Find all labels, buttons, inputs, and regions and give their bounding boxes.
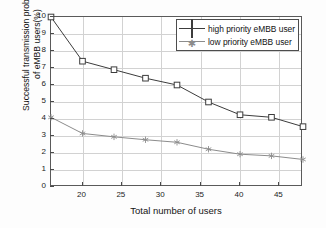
data-point-marker-square <box>269 115 275 121</box>
y-tick-mark <box>50 16 54 17</box>
y-tick-label: 10 <box>24 11 46 20</box>
x-tick-mark <box>121 182 122 186</box>
x-tick-mark <box>200 182 201 186</box>
y-tick-label: 0 <box>24 181 46 190</box>
y-tick-mark <box>50 50 54 51</box>
data-point-marker-square <box>111 67 117 73</box>
x-axis-title: Total number of users <box>50 205 302 216</box>
y-tick-label: 8 <box>24 45 46 54</box>
chart-legend[interactable]: high priority eMBB user ✱ low priority e… <box>176 19 299 51</box>
x-tick-label: 20 <box>70 190 94 199</box>
data-point-marker-square <box>143 75 149 81</box>
legend-label-high-priority: high priority eMBB user <box>208 24 295 34</box>
y-tick-label: 9 <box>24 28 46 37</box>
y-tick-mark <box>50 67 54 68</box>
x-tick-mark <box>239 182 240 186</box>
y-tick-label: 2 <box>24 147 46 156</box>
chart-figure: Successful transmission probability of e… <box>0 0 326 228</box>
y-tick-label: 4 <box>24 113 46 122</box>
y-tick-mark <box>50 152 54 153</box>
y-tick-mark <box>50 33 54 34</box>
y-tick-mark <box>50 84 54 85</box>
x-tick-mark <box>278 182 279 186</box>
x-tick-label: 35 <box>188 190 212 199</box>
legend-item-low-priority[interactable]: ✱ low priority eMBB user <box>179 35 295 48</box>
y-tick-mark <box>50 118 54 119</box>
data-point-marker-square <box>80 58 86 64</box>
legend-item-high-priority[interactable]: high priority eMBB user <box>179 22 295 35</box>
y-tick-label: 6 <box>24 79 46 88</box>
y-tick-label: 5 <box>24 96 46 105</box>
y-tick-label: 3 <box>24 130 46 139</box>
x-tick-mark <box>82 182 83 186</box>
x-tick-mark <box>160 182 161 186</box>
y-tick-label: 7 <box>24 62 46 71</box>
x-tick-label: 25 <box>109 190 133 199</box>
y-tick-mark <box>50 135 54 136</box>
data-point-marker-square <box>174 82 180 88</box>
y-tick-mark <box>50 101 54 102</box>
series-line-low-priority <box>51 117 303 159</box>
x-tick-label: 40 <box>227 190 251 199</box>
data-point-marker-square <box>206 99 212 105</box>
y-tick-mark <box>50 186 54 187</box>
data-point-marker-square <box>237 112 243 118</box>
x-tick-label: 45 <box>266 190 290 199</box>
y-tick-mark <box>50 169 54 170</box>
y-tick-label: 1 <box>24 164 46 173</box>
data-point-marker-square <box>300 124 306 130</box>
legend-swatch-asterisk-icon: ✱ <box>179 36 205 47</box>
x-tick-label: 30 <box>148 190 172 199</box>
legend-label-low-priority: low priority eMBB user <box>208 37 292 47</box>
